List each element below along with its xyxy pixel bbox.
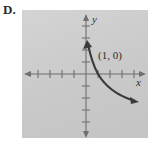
graph-panel: (1, 0) y x [22,10,148,138]
figure-screenshot: D. [0,0,156,148]
x-axis-arrow-left [24,71,31,77]
y-axis-arrow-up [83,14,89,21]
y-axis-label: y [91,13,97,25]
y-axis-arrow-down [83,131,89,138]
choice-letter-label: D. [3,3,16,16]
curve-arrow-start [83,40,92,49]
y-axis-group [83,14,89,138]
x-axis-label: x [135,76,141,88]
x-axis-group [24,71,146,77]
curve-arrow-end [130,97,139,104]
point-annotation-label: (1, 0) [98,49,122,62]
